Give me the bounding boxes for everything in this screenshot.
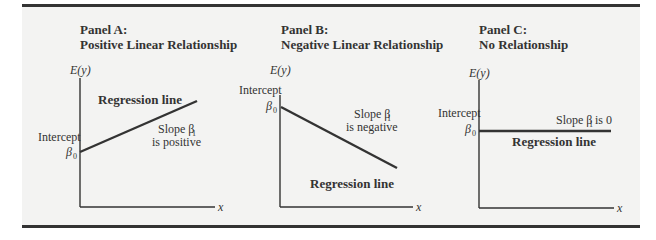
panel-a-slope-desc: is positive bbox=[152, 135, 201, 149]
panel-a-slope-label: Slope β bbox=[158, 122, 194, 136]
panel-a-y-axis-label: E(y) bbox=[69, 63, 91, 77]
panel-b-y-axis-label: E(y) bbox=[269, 63, 291, 77]
panel-b-intercept-symbol: β bbox=[265, 99, 272, 113]
panel-c-regression-label: Regression line bbox=[512, 134, 596, 149]
panel-a-intercept-label: Intercept bbox=[38, 130, 81, 144]
panel-c-title: Panel C: bbox=[479, 22, 527, 37]
panel-a-title: Panel A: bbox=[80, 22, 127, 37]
panel-c-slope-subscript: 1 bbox=[589, 120, 593, 129]
panel-b-slope-desc: is negative bbox=[346, 120, 398, 134]
panel-c-x-axis-label: x bbox=[616, 201, 623, 215]
panel-a-x-axis-label: x bbox=[217, 200, 224, 214]
panel-c-intercept-label: Intercept bbox=[438, 106, 481, 120]
panel-b-regression-label: Regression line bbox=[310, 176, 394, 191]
panel-a-subtitle: Positive Linear Relationship bbox=[80, 37, 237, 52]
panel-b-title: Panel B: bbox=[281, 22, 328, 37]
regression-diagram: Panel A: Positive Linear Relationship E(… bbox=[0, 0, 656, 240]
panel-b-slope-label: Slope β bbox=[354, 107, 390, 121]
panel-b-intercept-subscript: 0 bbox=[273, 106, 277, 115]
panel-c-intercept-symbol: β bbox=[464, 122, 471, 136]
panel-b-intercept-label: Intercept bbox=[239, 83, 282, 97]
panel-a-intercept-subscript: 0 bbox=[73, 152, 77, 161]
panel-b-x-axis-label: x bbox=[415, 200, 422, 214]
panel-c-subtitle: No Relationship bbox=[479, 37, 568, 52]
panel-c-slope-desc: is 0 bbox=[595, 113, 612, 127]
panel-b-subtitle: Negative Linear Relationship bbox=[281, 37, 443, 52]
panel-c-y-axis-label: E(y) bbox=[468, 66, 490, 80]
panel-b: Panel B: Negative Linear Relationship E(… bbox=[239, 22, 443, 214]
panel-a-intercept-symbol: β bbox=[65, 145, 72, 159]
panel-c-slope-label: Slope β bbox=[556, 113, 592, 127]
panel-a-regression-label: Regression line bbox=[98, 92, 182, 107]
panel-c: Panel C: No Relationship E(y) x Regressi… bbox=[438, 22, 623, 215]
panel-c-intercept-subscript: 0 bbox=[472, 129, 476, 138]
panel-a: Panel A: Positive Linear Relationship E(… bbox=[38, 22, 237, 214]
